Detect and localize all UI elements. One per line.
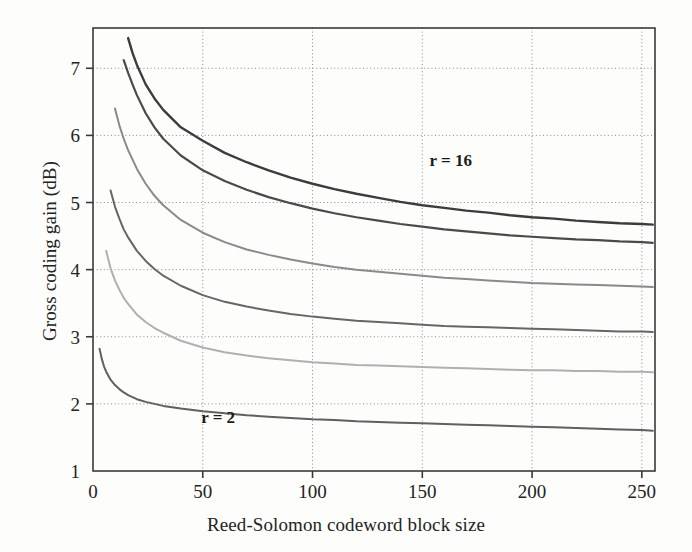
x-tick-label: 200 <box>518 481 547 502</box>
figure-container: 1234567050100150200250r = 16r = 2 Gross … <box>0 0 692 552</box>
series-line-3 <box>111 190 653 332</box>
y-tick-label: 7 <box>71 58 81 79</box>
plot-frame <box>93 28 655 471</box>
series-line-0 <box>128 38 653 225</box>
y-tick-label: 2 <box>71 394 81 415</box>
y-axis-label: Gross coding gain (dB) <box>39 51 61 451</box>
annotation-label-0: r = 16 <box>430 151 472 170</box>
series-line-4 <box>106 251 653 372</box>
y-tick-label: 5 <box>71 193 81 214</box>
x-axis-label: Reed-Solomon codeword block size <box>0 514 692 536</box>
x-tick-label: 250 <box>628 481 657 502</box>
y-tick-label: 3 <box>71 327 81 348</box>
x-tick-label: 100 <box>298 481 327 502</box>
x-tick-label: 150 <box>408 481 437 502</box>
y-tick-label: 4 <box>71 260 81 281</box>
x-tick-label: 50 <box>193 481 212 502</box>
x-tick-label: 0 <box>88 481 98 502</box>
y-tick-label: 6 <box>71 125 81 146</box>
y-tick-label: 1 <box>71 461 81 482</box>
series-line-5 <box>100 349 653 431</box>
annotation-label-1: r = 2 <box>201 408 235 427</box>
line-chart: 1234567050100150200250r = 16r = 2 <box>0 0 692 552</box>
